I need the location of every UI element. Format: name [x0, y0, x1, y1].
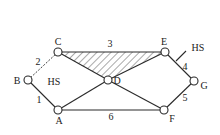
node-label-D: D [113, 75, 120, 86]
node-label-F: F [169, 113, 175, 124]
node-label-B: B [14, 75, 21, 86]
edge-label-3: 3 [108, 38, 113, 49]
node-label-A: A [55, 115, 63, 126]
edge-label-6: 6 [109, 111, 114, 122]
edge-A-D [58, 80, 108, 110]
node-A [54, 106, 62, 114]
edge-label-2: 2 [36, 56, 41, 67]
node-G [190, 77, 198, 85]
node-label-G: G [200, 80, 207, 91]
edge-label-4: 4 [183, 61, 188, 72]
node-E [161, 48, 169, 56]
graph-diagram: A B C D E F G 1 2 3 4 5 6 HS HS [0, 0, 220, 135]
hs-label-right: HS [192, 42, 205, 53]
node-F [160, 106, 168, 114]
hatched-region [58, 52, 165, 80]
node-B [24, 76, 32, 84]
node-D [104, 76, 112, 84]
edge-label-5: 5 [183, 92, 188, 103]
edge-F-G [164, 81, 194, 110]
node-label-E: E [161, 36, 167, 47]
hs-label-left: HS [48, 76, 61, 87]
node-label-C: C [55, 36, 62, 47]
edge-E-G [165, 52, 194, 81]
hs-pointer-line [176, 51, 186, 61]
edge-label-1: 1 [37, 94, 42, 105]
node-C [54, 48, 62, 56]
